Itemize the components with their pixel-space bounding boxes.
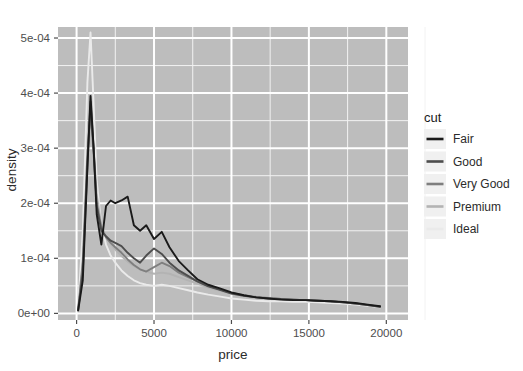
x-axis-title: price [218,347,247,362]
y-tick-label: 0e+00 [18,307,50,319]
legend-item-label: Ideal [453,222,479,236]
density-plot-figure: 05000100001500020000 0e+001e-042e-043e-0… [0,0,523,371]
plot-panel [58,27,425,320]
x-tick-label: 15000 [293,327,325,339]
x-tick-label: 0 [73,327,79,339]
x-tick-label: 20000 [370,327,402,339]
y-tick-label: 5e-04 [21,32,51,44]
y-tick-label: 2e-04 [21,197,51,209]
legend-item-label: Good [453,155,482,169]
y-tick-label: 1e-04 [21,252,51,264]
x-tick-label: 5000 [141,327,167,339]
y-tick-label: 4e-04 [21,87,51,99]
panel-background [58,27,408,320]
legend-item-label: Fair [453,132,474,146]
legend-title: cut [424,110,442,125]
y-tick-label: 3e-04 [21,142,51,154]
y-axis-title: density [4,148,19,191]
x-tick-label: 10000 [215,327,247,339]
legend-item-label: Premium [453,200,501,214]
legend-item-label: Very Good [453,177,510,191]
